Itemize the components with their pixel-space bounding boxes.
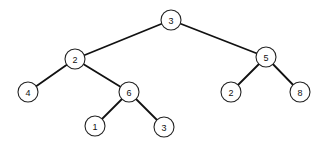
- node-label: 8: [297, 88, 302, 98]
- node-label: 4: [25, 88, 30, 98]
- tree-edge: [171, 20, 266, 57]
- tree-node: 5: [256, 47, 276, 67]
- tree-node: 6: [119, 82, 139, 102]
- node-label: 6: [126, 88, 131, 98]
- tree-node: 4: [18, 82, 38, 102]
- tree-edge: [75, 20, 171, 59]
- edges-layer: [28, 20, 300, 127]
- node-label: 1: [92, 122, 97, 132]
- tree-node: 2: [65, 49, 85, 69]
- tree-node: 1: [85, 116, 105, 136]
- nodes-layer: 325462813: [18, 10, 310, 137]
- node-label: 3: [161, 123, 166, 133]
- tree-node: 3: [161, 10, 181, 30]
- node-label: 2: [228, 88, 233, 98]
- tree-node: 2: [221, 82, 241, 102]
- tree-diagram: 325462813: [0, 0, 324, 150]
- node-label: 5: [263, 53, 268, 63]
- tree-node: 8: [290, 82, 310, 102]
- node-label: 3: [168, 16, 173, 26]
- node-label: 2: [72, 55, 77, 65]
- tree-node: 3: [154, 117, 174, 137]
